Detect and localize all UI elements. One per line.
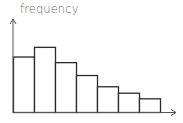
histogram-bar bbox=[14, 57, 35, 112]
histogram-chart bbox=[0, 0, 183, 123]
histogram-bar bbox=[56, 63, 77, 113]
histogram-bar bbox=[140, 99, 161, 113]
histogram-bar bbox=[119, 93, 140, 112]
bars-group bbox=[14, 47, 161, 112]
histogram-bar bbox=[35, 47, 56, 112]
histogram-bar bbox=[98, 87, 119, 113]
histogram-bar bbox=[77, 76, 98, 113]
